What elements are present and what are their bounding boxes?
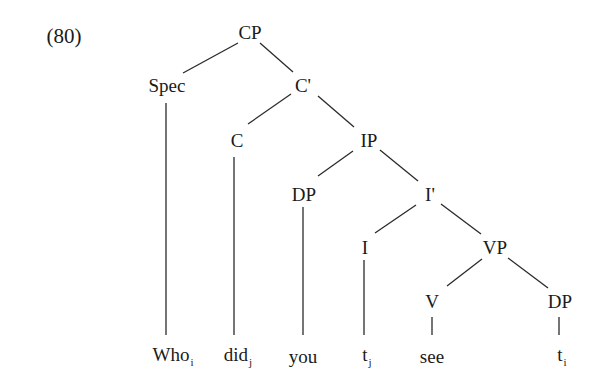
leaf-word: t — [362, 344, 367, 365]
edge-ip-ibar — [380, 150, 418, 181]
example-number: (80) — [47, 26, 82, 47]
node-spec: Spec — [149, 76, 186, 95]
leaf-did: didj — [224, 345, 252, 368]
edge-cp-spec — [183, 43, 238, 73]
leaf-word: Who — [153, 344, 190, 365]
edge-vp-dp — [508, 258, 548, 288]
leaf-index: j — [369, 356, 372, 368]
leaf-who: Whoi — [153, 345, 194, 368]
node-ip: IP — [361, 131, 378, 150]
node-vp: VP — [483, 238, 507, 257]
node-c-bar: C' — [295, 76, 311, 95]
leaf-trace-j: tj — [362, 345, 371, 368]
edge-ip-dp — [318, 151, 353, 176]
leaf-see: see — [420, 347, 444, 366]
leaf-trace-i: ti — [557, 345, 566, 368]
leaf-word: you — [289, 346, 318, 367]
leaf-index: i — [190, 356, 193, 368]
leaf-word: did — [224, 344, 248, 365]
edge-ibar-vp — [441, 204, 481, 234]
leaf-index: j — [249, 356, 252, 368]
leaf-index: i — [564, 356, 567, 368]
leaf-word: see — [420, 346, 444, 367]
node-i: I — [362, 238, 368, 257]
node-dp-subject: DP — [292, 185, 316, 204]
node-c: C — [231, 131, 244, 150]
node-dp-object: DP — [548, 292, 572, 311]
edge-cp-cbar — [260, 43, 293, 72]
edge-ibar-i — [375, 205, 416, 233]
edge-vp-v — [447, 259, 482, 286]
edge-cbar-c — [248, 94, 291, 124]
node-cp: CP — [238, 23, 261, 42]
node-v: V — [425, 292, 439, 311]
edge-cbar-ip — [318, 96, 354, 127]
node-i-bar: I' — [425, 185, 435, 204]
leaf-word: t — [557, 344, 562, 365]
leaf-you: you — [289, 347, 318, 366]
